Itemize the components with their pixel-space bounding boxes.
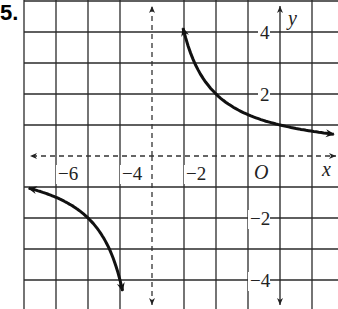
x-tick-label: −4 [122,163,143,184]
problem-number: 5. [0,0,18,25]
curve-right-branch [183,28,334,134]
y-tick-label: −4 [250,270,271,291]
graph: −6−4−242−2−4 5. y x O [0,0,338,309]
x-axis-label: x [321,158,331,180]
y-tick-label: −2 [250,208,270,229]
y-tick-label: 2 [260,84,270,105]
grid [24,0,338,309]
y-tick-label: 4 [260,22,270,43]
curve-left-branch [29,188,123,291]
y-axis-label: y [286,7,297,30]
function-curves [29,28,334,291]
x-tick-label: −6 [58,163,78,184]
origin-label: O [254,161,268,183]
x-tick-label: −2 [186,163,206,184]
